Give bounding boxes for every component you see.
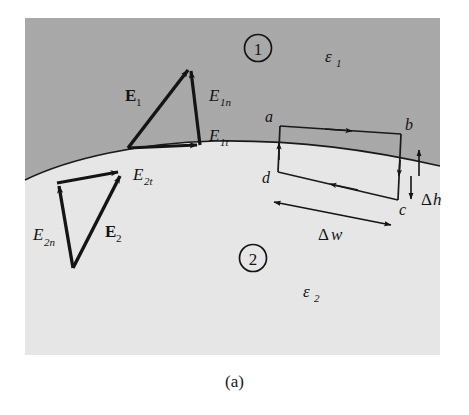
- vector-E1n-label-base: E: [208, 86, 220, 105]
- vector-E1n-label-sub: 1n: [220, 96, 232, 108]
- loop-corner-label-a: a: [265, 108, 273, 125]
- vector-E2-label-sub: 2: [116, 232, 122, 244]
- loop-corner-label-d: d: [262, 169, 271, 186]
- region-2-marker-label: 2: [249, 250, 258, 269]
- dimension-delta-h-name: h: [433, 190, 442, 209]
- region-2-permittivity-symbol: ε: [303, 282, 310, 301]
- region-1-permittivity-subscript: 1: [336, 57, 342, 69]
- region-2-permittivity-subscript: 2: [314, 292, 320, 304]
- vector-E2t-label-base: E: [132, 165, 144, 184]
- region-1-permittivity-symbol: ε: [325, 47, 332, 66]
- vector-E2t-label-sub: 2t: [144, 175, 154, 187]
- vector-E1t-label-sub: 1t: [220, 136, 230, 148]
- loop-corner-label-c: c: [399, 201, 406, 218]
- vector-E2n-label-base: E: [32, 225, 44, 244]
- region-1-marker-label: 1: [254, 40, 263, 59]
- vector-E1-label-base: E: [125, 86, 136, 105]
- vector-E1t-label-base: E: [208, 126, 220, 145]
- halftone-texture: [25, 18, 440, 355]
- figure-caption: (a): [0, 372, 469, 392]
- dimension-delta-h-symbol: Δ: [421, 190, 432, 209]
- loop-direction-arrow-right: [399, 160, 400, 176]
- figure-container: 1 ε 1 2 ε 2 E 1: [0, 0, 469, 415]
- vector-E2n-label-sub: 2n: [44, 236, 56, 248]
- vector-E2-label-base: E: [105, 222, 116, 241]
- vector-E1-label-sub: 1: [136, 96, 142, 108]
- boundary-conditions-diagram: 1 ε 1 2 ε 2 E 1: [0, 0, 469, 415]
- dimension-delta-w-symbol: Δ: [318, 225, 329, 244]
- dimension-delta-w-name: w: [331, 225, 343, 244]
- loop-corner-label-b: b: [405, 116, 413, 133]
